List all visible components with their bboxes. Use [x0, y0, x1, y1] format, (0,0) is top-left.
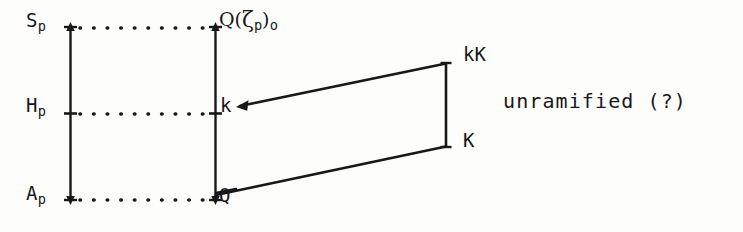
field-extension-quadrilateral: [216, 62, 452, 195]
label-k: k: [220, 96, 231, 115]
label-Q-outer-subscript: o: [270, 17, 278, 33]
diagram-drawing: [0, 0, 743, 232]
label-H-p-base: H: [26, 94, 37, 116]
figure-canvas: Sp Hp Ap Q(ζp)o k Q kK K unramified (?): [0, 0, 743, 232]
label-A-p-subscript: p: [38, 191, 46, 207]
label-Q-close: ): [262, 8, 269, 30]
label-A-p: Ap: [26, 184, 46, 203]
annotation-unramified: unramified (?): [503, 91, 687, 111]
zeta-glyph: ζ: [242, 7, 254, 32]
label-Q-zeta-p-o: Q(ζp)o: [219, 8, 278, 30]
label-Q: Q: [219, 186, 230, 205]
left-vertical-axis: [64, 22, 77, 205]
label-H-p: Hp: [26, 96, 46, 115]
label-S-p-base: S: [26, 9, 37, 31]
label-H-p-subscript: p: [38, 103, 46, 119]
label-Q-open: Q(: [219, 8, 242, 30]
label-kK: kK: [463, 45, 486, 64]
label-zeta-subscript: p: [254, 17, 262, 33]
label-A-p-base: A: [26, 182, 37, 204]
label-K: K: [463, 131, 474, 150]
label-S-p-subscript: p: [38, 18, 46, 34]
label-S-p: Sp: [26, 11, 46, 30]
